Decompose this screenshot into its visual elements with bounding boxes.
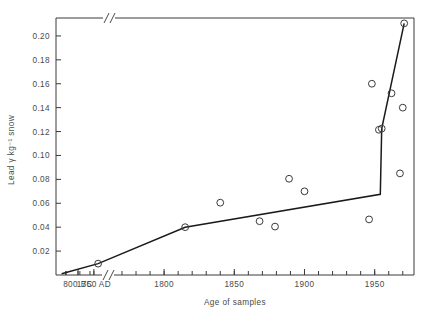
y-tick-label: 0.08: [32, 175, 50, 184]
y-axis-tick-labels: 0.020.040.060.080.100.120.140.160.180.20: [32, 32, 50, 256]
top-axis-break-icon: [104, 13, 115, 23]
x-axis-break-icon: [103, 270, 114, 280]
y-tick-label: 0.16: [32, 80, 50, 89]
lead-in-snow-scatter-chart: 0.020.040.060.080.100.120.140.160.180.20…: [0, 0, 429, 317]
x-axis-tick-labels: 800 BC1750 AD1800185019001950: [63, 280, 384, 289]
x-tick-label: 1850: [224, 280, 244, 289]
data-point-marker: [272, 223, 279, 230]
y-tick-label: 0.02: [32, 247, 50, 256]
y-axis-title: Lead γ kg⁻¹ snow: [7, 115, 16, 185]
y-axis-ticks: [56, 36, 61, 251]
x-tick-label: 1750 AD: [77, 280, 111, 289]
data-point-marker: [399, 104, 406, 111]
data-point-marker: [366, 216, 373, 223]
x-tick-label: 1800: [154, 280, 174, 289]
x-tick-label: 1950: [365, 280, 385, 289]
trend-line: [62, 23, 405, 273]
plot-frame: [56, 18, 414, 275]
x-tick-label: 1900: [295, 280, 315, 289]
data-point-marker: [301, 188, 308, 195]
y-tick-label: 0.18: [32, 56, 50, 65]
y-tick-label: 0.20: [32, 32, 50, 41]
y-tick-label: 0.14: [32, 104, 50, 113]
data-point-marker: [256, 218, 263, 225]
chart-figure: 0.020.040.060.080.100.120.140.160.180.20…: [0, 0, 429, 317]
y-tick-label: 0.12: [32, 128, 50, 137]
data-point-marker: [286, 175, 293, 182]
data-point-marker: [217, 199, 224, 206]
x-axis-title: Age of samples: [204, 298, 266, 307]
data-point-marker: [397, 170, 404, 177]
data-point-markers: [95, 20, 408, 267]
y-tick-label: 0.06: [32, 199, 50, 208]
data-point-marker: [368, 80, 375, 87]
y-tick-label: 0.10: [32, 151, 50, 160]
y-tick-label: 0.04: [32, 223, 50, 232]
x-axis-major-ticks: [78, 269, 375, 275]
